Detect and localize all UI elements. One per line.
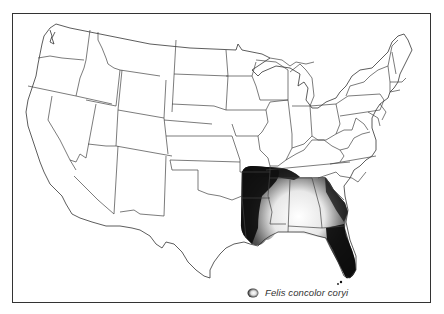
coastline bbox=[26, 24, 412, 278]
legend-label: Felis concolor coryi bbox=[265, 287, 348, 298]
range-area bbox=[241, 166, 356, 285]
state-boundaries bbox=[28, 30, 406, 238]
puget-sound bbox=[50, 30, 55, 44]
range-shading-icon bbox=[247, 288, 259, 298]
us-map bbox=[0, 0, 444, 314]
legend: Felis concolor coryi bbox=[247, 287, 348, 298]
